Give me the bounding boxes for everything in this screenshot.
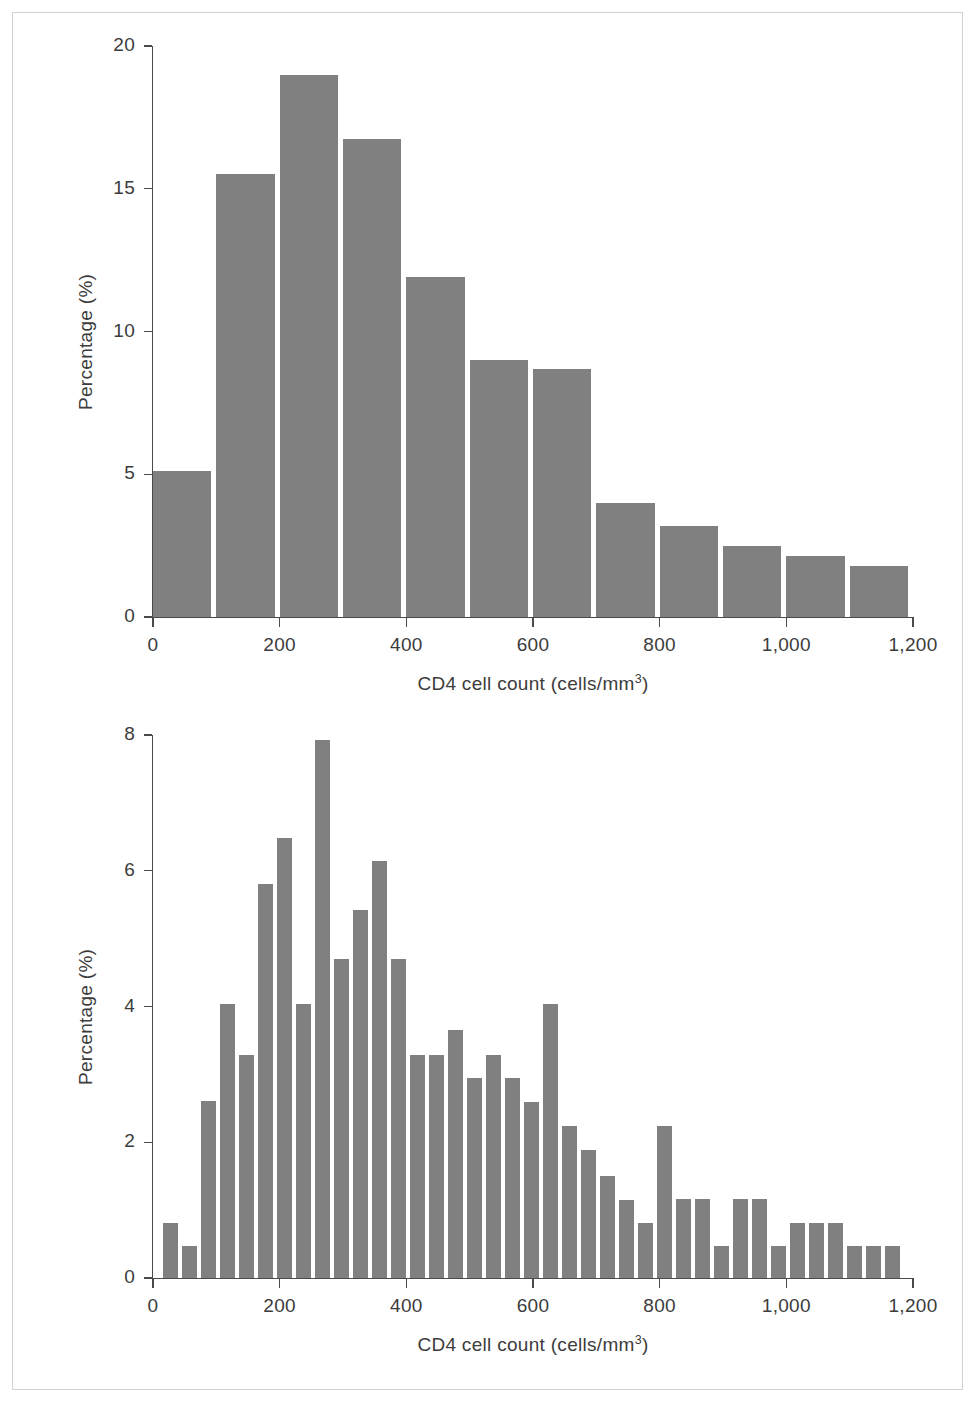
x-tick bbox=[406, 618, 407, 627]
y-axis-title-bottom: Percentage (%) bbox=[75, 948, 97, 1084]
x-tick-label: 0 bbox=[108, 1295, 198, 1317]
histogram-bar bbox=[723, 546, 781, 617]
x-tick bbox=[786, 1279, 787, 1288]
histogram-bar bbox=[201, 1101, 216, 1278]
histogram-bar bbox=[581, 1150, 596, 1278]
histogram-bar bbox=[163, 1223, 178, 1278]
histogram-bar bbox=[470, 360, 528, 617]
histogram-bar bbox=[790, 1223, 805, 1278]
x-axis-title-bottom: CD4 cell count (cells/mm3) bbox=[373, 1333, 693, 1356]
histogram-bar bbox=[847, 1246, 862, 1278]
histogram-bar bbox=[153, 471, 211, 617]
histogram-bar bbox=[866, 1246, 881, 1278]
x-tick-label: 1,200 bbox=[868, 634, 958, 656]
x-tick bbox=[912, 618, 913, 627]
x-tick bbox=[279, 618, 280, 627]
y-axis-line bbox=[152, 735, 153, 1279]
histogram-bar bbox=[410, 1055, 425, 1278]
x-tick-label: 800 bbox=[615, 634, 705, 656]
x-tick-label: 600 bbox=[488, 634, 578, 656]
x-tick bbox=[659, 1279, 660, 1288]
x-tick-label: 1,200 bbox=[868, 1295, 958, 1317]
histogram-bar bbox=[406, 277, 464, 617]
y-tick bbox=[144, 616, 152, 617]
histogram-bar bbox=[524, 1102, 539, 1278]
y-tick-label: 15 bbox=[83, 177, 135, 199]
histogram-bar bbox=[391, 959, 406, 1278]
y-tick bbox=[144, 1142, 152, 1143]
y-tick bbox=[144, 1006, 152, 1007]
histogram-bar bbox=[448, 1030, 463, 1278]
histogram-bar bbox=[533, 369, 591, 617]
y-tick bbox=[144, 1277, 152, 1278]
x-axis-title-top-main: CD4 cell count (cells/mm bbox=[417, 673, 634, 694]
histogram-bar bbox=[182, 1246, 197, 1278]
x-tick-label: 400 bbox=[361, 634, 451, 656]
x-tick bbox=[279, 1279, 280, 1288]
y-tick-label: 0 bbox=[83, 605, 135, 627]
y-tick bbox=[144, 734, 152, 735]
y-tick bbox=[144, 474, 152, 475]
histogram-bar bbox=[850, 566, 908, 617]
histogram-bar bbox=[828, 1223, 843, 1278]
x-tick bbox=[659, 618, 660, 627]
histogram-bar bbox=[296, 1004, 311, 1278]
histogram-bar bbox=[280, 75, 338, 617]
x-tick bbox=[406, 1279, 407, 1288]
histogram-bar bbox=[429, 1055, 444, 1278]
x-tick bbox=[532, 618, 533, 627]
histogram-bar bbox=[733, 1199, 748, 1278]
histogram-bar bbox=[885, 1246, 900, 1278]
histogram-bar bbox=[657, 1126, 672, 1278]
y-tick-label: 8 bbox=[83, 723, 135, 745]
histogram-bar bbox=[752, 1199, 767, 1278]
histogram-bar bbox=[695, 1199, 710, 1278]
x-tick-label: 1,000 bbox=[741, 634, 831, 656]
x-tick-label: 400 bbox=[361, 1295, 451, 1317]
y-tick-label: 0 bbox=[83, 1266, 135, 1288]
histogram-bar bbox=[596, 503, 654, 617]
histogram-bar bbox=[543, 1004, 558, 1278]
histogram-bar bbox=[486, 1055, 501, 1278]
x-axis-title-bottom-sup: 3 bbox=[635, 1333, 642, 1347]
histogram-bar bbox=[467, 1078, 482, 1278]
x-axis-title-top-sup: 3 bbox=[635, 672, 642, 686]
y-tick bbox=[144, 188, 152, 189]
figure-frame: 0510152002004006008001,0001,200 Percenta… bbox=[12, 12, 963, 1390]
chart-panel-top: 0510152002004006008001,0001,200 Percenta… bbox=[13, 13, 962, 713]
histogram-bar bbox=[660, 526, 718, 617]
histogram-bar bbox=[638, 1223, 653, 1278]
x-tick bbox=[912, 1279, 913, 1288]
histogram-bar bbox=[277, 838, 292, 1278]
histogram-bar bbox=[239, 1055, 254, 1278]
histogram-bar bbox=[372, 861, 387, 1278]
x-axis-title-bottom-main: CD4 cell count (cells/mm bbox=[417, 1334, 634, 1355]
x-tick bbox=[532, 1279, 533, 1288]
y-axis-title-top: Percentage (%) bbox=[75, 273, 97, 409]
histogram-bar bbox=[258, 884, 273, 1278]
y-tick-label: 5 bbox=[83, 462, 135, 484]
y-tick bbox=[144, 45, 152, 46]
histogram-bar bbox=[216, 174, 274, 617]
plot-area-bottom bbox=[153, 735, 913, 1278]
x-axis-title-bottom-close: ) bbox=[642, 1334, 649, 1355]
histogram-bar bbox=[562, 1126, 577, 1278]
x-tick-label: 200 bbox=[235, 634, 325, 656]
x-axis-title-top-close: ) bbox=[642, 673, 649, 694]
histogram-bar bbox=[714, 1246, 729, 1278]
y-tick bbox=[144, 870, 152, 871]
x-tick-label: 1,000 bbox=[741, 1295, 831, 1317]
histogram-bar bbox=[771, 1246, 786, 1278]
x-tick-label: 800 bbox=[615, 1295, 705, 1317]
x-tick bbox=[152, 1279, 153, 1288]
histogram-bar bbox=[353, 910, 368, 1278]
y-tick-label: 20 bbox=[83, 34, 135, 56]
histogram-bar bbox=[786, 556, 844, 617]
histogram-bar bbox=[809, 1223, 824, 1278]
x-tick bbox=[152, 618, 153, 627]
x-tick-label: 600 bbox=[488, 1295, 578, 1317]
y-tick-label: 6 bbox=[83, 859, 135, 881]
x-tick-label: 0 bbox=[108, 634, 198, 656]
plot-area-top bbox=[153, 46, 913, 617]
histogram-bar bbox=[619, 1200, 634, 1278]
